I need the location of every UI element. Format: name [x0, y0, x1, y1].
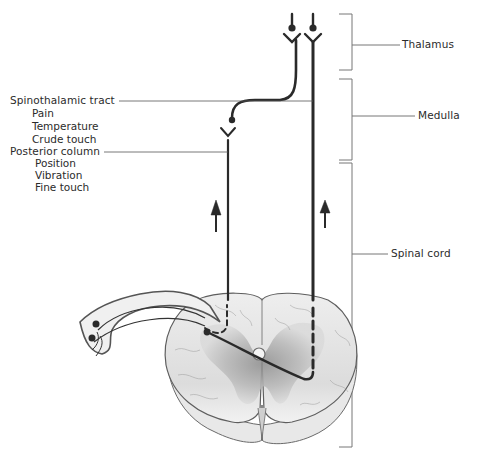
region-label-medulla: Medulla: [418, 109, 460, 121]
up-arrow-icon: [211, 200, 221, 232]
diagram-artwork: [0, 0, 484, 464]
spinal-cord-cross-section: [165, 293, 357, 443]
spinal-pathways-diagram: Thalamus Medulla Spinal cord Spinothalam…: [0, 0, 484, 464]
modality-crude-touch: Crude touch: [32, 133, 96, 145]
modality-temperature: Temperature: [32, 120, 99, 132]
modality-fine-touch: Fine touch: [35, 181, 89, 193]
tract-label-posterior-column: Posterior column: [10, 145, 100, 157]
up-arrow-icon: [320, 200, 330, 228]
modality-vibration: Vibration: [35, 169, 82, 181]
tract-label-spinothalamic: Spinothalamic tract: [10, 94, 115, 106]
modality-position: Position: [35, 157, 76, 169]
modality-pain: Pain: [32, 107, 54, 119]
region-label-spinal-cord: Spinal cord: [391, 247, 451, 259]
region-label-thalamus: Thalamus: [402, 38, 454, 50]
tract-leader-lines: [104, 101, 313, 152]
thalamus-bracket: [339, 14, 400, 70]
medulla-bracket: [339, 79, 415, 160]
